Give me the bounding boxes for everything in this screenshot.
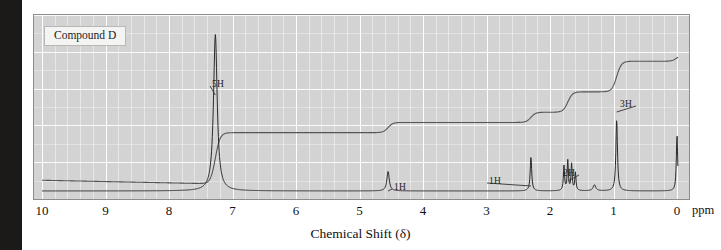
x-tick-label-8: 8 — [166, 203, 173, 219]
compound-label: Compound D — [44, 26, 126, 46]
spectrum-plot-area — [33, 14, 690, 200]
x-tick-label-1: 1 — [610, 203, 617, 219]
x-tick-label-0: 0 — [674, 203, 681, 219]
x-tick-label-6: 6 — [293, 203, 300, 219]
peak-annotation-1h-1: 1H — [394, 182, 406, 192]
integration-trace — [42, 57, 678, 183]
x-axis: 109876543210 — [33, 200, 690, 220]
x-tick-label-10: 10 — [36, 203, 49, 219]
x-axis-title: Chemical Shift (δ) — [0, 226, 721, 242]
x-tick-label-5: 5 — [356, 203, 363, 219]
spectrum-traces — [34, 15, 689, 199]
x-tick-label-9: 9 — [102, 203, 109, 219]
peak-annotation-1h-2: 1H — [489, 176, 501, 186]
x-tick-label-3: 3 — [483, 203, 490, 219]
x-tick-label-7: 7 — [229, 203, 236, 219]
peak-annotation-2h-3: 2H — [563, 168, 575, 178]
peak-annotation-3h-4: 3H — [620, 99, 632, 109]
spectrum-trace — [42, 35, 678, 191]
ppm-unit-label: ppm — [692, 203, 714, 218]
nmr-spectrum-figure: Compound D 5H1H1H2H3H 109876543210 ppm C… — [0, 0, 721, 250]
x-tick-label-2: 2 — [547, 203, 554, 219]
x-tick-label-4: 4 — [420, 203, 427, 219]
peak-annotation-5h-0: 5H — [212, 79, 224, 89]
